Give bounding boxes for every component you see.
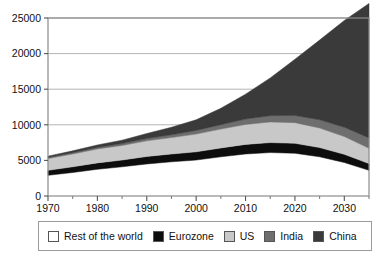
x-tick-label: 1970: [36, 202, 60, 212]
y-tick-label: 0: [35, 190, 41, 202]
legend-label: India: [280, 231, 303, 242]
stacked-area-chart-figure: 0500010000150002000025000 19701980199020…: [0, 0, 380, 264]
x-tick-label: 1990: [135, 202, 159, 212]
legend-label: Eurozone: [169, 231, 214, 242]
x-axis-ticks-group: 1970198019902000201020202030: [36, 196, 369, 212]
stacked-areas-group: [48, 3, 369, 196]
x-tick-label: 2020: [283, 202, 307, 212]
legend-swatch: [264, 231, 275, 242]
legend-swatch: [48, 231, 59, 242]
y-tick-label: 25000: [12, 12, 41, 24]
legend-label: China: [329, 231, 356, 242]
x-tick-label: 1980: [86, 202, 110, 212]
x-tick-label: 2030: [333, 202, 357, 212]
chart-legend: Rest of the worldEurozoneUSIndiaChina: [38, 221, 372, 251]
y-tick-label: 20000: [12, 47, 41, 59]
x-tick-label: 2000: [184, 202, 208, 212]
legend-item-eurozone: Eurozone: [153, 231, 214, 242]
x-tick-label: 2010: [234, 202, 258, 212]
y-tick-label: 15000: [12, 83, 41, 95]
legend-item-india: India: [264, 231, 303, 242]
legend-item-rest-of-the-world: Rest of the world: [48, 231, 143, 242]
chart-svg: 0500010000150002000025000 19701980199020…: [0, 0, 380, 212]
y-tick-label: 10000: [12, 119, 41, 131]
y-tick-label: 5000: [18, 154, 42, 166]
legend-swatch: [313, 231, 324, 242]
y-axis-ticks-group: 0500010000150002000025000: [12, 12, 48, 202]
chart-plot-container: 0500010000150002000025000 19701980199020…: [0, 0, 380, 212]
legend-label: US: [240, 231, 255, 242]
legend-swatch: [153, 231, 164, 242]
legend-item-china: China: [313, 231, 356, 242]
legend-swatch: [224, 231, 235, 242]
legend-label: Rest of the world: [64, 231, 143, 242]
legend-item-us: US: [224, 231, 255, 242]
